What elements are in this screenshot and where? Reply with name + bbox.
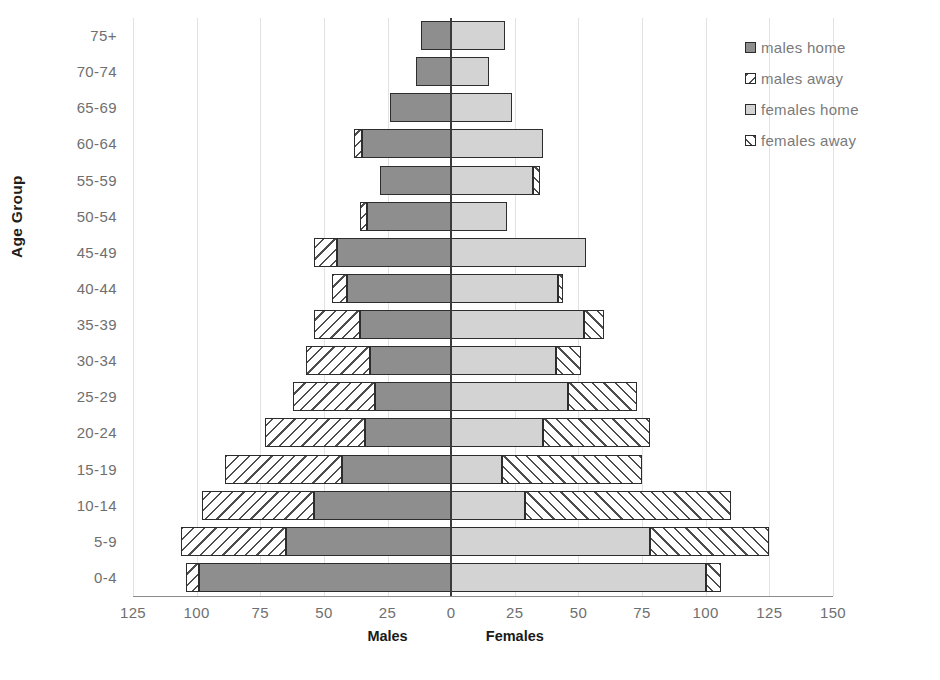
segment-females-away bbox=[525, 491, 731, 520]
bar-females bbox=[451, 527, 769, 556]
segment-males-home bbox=[362, 129, 451, 158]
legend-swatch-males-away-icon bbox=[745, 73, 756, 84]
bar-males bbox=[380, 166, 451, 195]
legend-item-males-away[interactable]: males away bbox=[745, 63, 935, 94]
bar-females bbox=[451, 491, 731, 520]
legend-swatch-females-away-icon bbox=[745, 135, 756, 146]
bar-row bbox=[133, 307, 833, 343]
bar-males bbox=[202, 491, 451, 520]
segment-males-away bbox=[265, 418, 364, 447]
bar-females bbox=[451, 346, 581, 375]
x-axis-tick-label: 100 bbox=[184, 604, 210, 621]
x-axis-tick-label: 25 bbox=[379, 604, 397, 621]
bar-males bbox=[354, 129, 451, 158]
legend-item-males-home[interactable]: males home bbox=[745, 32, 935, 63]
bar-row bbox=[133, 343, 833, 379]
bar-males bbox=[416, 57, 452, 86]
legend-item-females-away[interactable]: females away bbox=[745, 125, 935, 156]
x-axis-label-females: Females bbox=[486, 628, 544, 644]
segment-females-home bbox=[451, 418, 543, 447]
bar-row bbox=[133, 488, 833, 524]
bar-females bbox=[451, 563, 721, 592]
bar-males bbox=[314, 238, 451, 267]
segment-males-away bbox=[293, 382, 374, 411]
bar-row bbox=[133, 235, 833, 271]
legend: males homemales awayfemales homefemales … bbox=[745, 32, 935, 156]
segment-males-home bbox=[199, 563, 451, 592]
bar-males bbox=[360, 202, 452, 231]
segment-females-home bbox=[451, 238, 586, 267]
segment-females-away bbox=[650, 527, 770, 556]
segment-females-home bbox=[451, 455, 502, 484]
bar-females bbox=[451, 455, 642, 484]
segment-males-home bbox=[421, 21, 452, 50]
y-axis-labels: 75+70-7465-6960-6455-5950-5445-4940-4435… bbox=[0, 18, 125, 596]
legend-label: males away bbox=[761, 70, 843, 87]
x-axis-tick-label: 100 bbox=[693, 604, 719, 621]
x-axis-baseline bbox=[133, 596, 833, 597]
segment-females-away bbox=[568, 382, 637, 411]
bar-females bbox=[451, 57, 489, 86]
x-axis-tick-label: 50 bbox=[570, 604, 588, 621]
bar-females bbox=[451, 274, 563, 303]
bar-row bbox=[133, 163, 833, 199]
segment-males-home bbox=[390, 93, 451, 122]
segment-males-home bbox=[337, 238, 452, 267]
segment-males-away bbox=[202, 491, 314, 520]
y-axis-tick-label: 60-64 bbox=[77, 126, 117, 162]
bar-males bbox=[225, 455, 452, 484]
y-axis-tick-label: 20-24 bbox=[77, 415, 117, 451]
segment-males-away bbox=[186, 563, 199, 592]
bar-females bbox=[451, 310, 604, 339]
legend-label: females away bbox=[761, 132, 856, 149]
segment-males-away bbox=[225, 455, 342, 484]
plot-area bbox=[133, 18, 833, 596]
segment-females-away bbox=[533, 166, 541, 195]
y-axis-tick-label: 15-19 bbox=[77, 452, 117, 488]
legend-item-females-home[interactable]: females home bbox=[745, 94, 935, 125]
segment-males-away bbox=[181, 527, 285, 556]
segment-males-home bbox=[375, 382, 451, 411]
bar-males bbox=[390, 93, 451, 122]
segment-females-home bbox=[451, 21, 504, 50]
segment-males-home bbox=[314, 491, 451, 520]
bar-males bbox=[314, 310, 451, 339]
bar-row bbox=[133, 18, 833, 54]
bar-males bbox=[293, 382, 451, 411]
y-axis-tick-label: 70-74 bbox=[77, 54, 117, 90]
x-axis-tick-label: 125 bbox=[120, 604, 146, 621]
bar-males bbox=[181, 527, 451, 556]
segment-males-away bbox=[332, 274, 347, 303]
segment-females-away bbox=[558, 274, 563, 303]
y-axis-tick-label: 40-44 bbox=[77, 271, 117, 307]
segment-females-home bbox=[451, 310, 583, 339]
y-axis-tick-label: 55-59 bbox=[77, 163, 117, 199]
bar-females bbox=[451, 238, 586, 267]
segment-males-away bbox=[360, 202, 368, 231]
y-axis-tick-label: 45-49 bbox=[77, 235, 117, 271]
bar-females bbox=[451, 93, 512, 122]
segment-males-home bbox=[370, 346, 451, 375]
bar-row bbox=[133, 126, 833, 162]
segment-females-home bbox=[451, 166, 532, 195]
x-axis-label-males: Males bbox=[367, 628, 407, 644]
segment-males-home bbox=[360, 310, 452, 339]
y-axis-tick-label: 10-14 bbox=[77, 488, 117, 524]
segment-males-away bbox=[314, 238, 337, 267]
segment-females-away bbox=[556, 346, 581, 375]
bar-females bbox=[451, 21, 504, 50]
segment-females-away bbox=[502, 455, 642, 484]
y-axis-tick-label: 25-29 bbox=[77, 379, 117, 415]
segment-males-home bbox=[342, 455, 451, 484]
population-pyramid-chart: Age Group 75+70-7465-6960-6455-5950-5445… bbox=[0, 0, 940, 680]
bar-row bbox=[133, 452, 833, 488]
segment-males-away bbox=[314, 310, 360, 339]
bar-row bbox=[133, 560, 833, 596]
y-axis-tick-label: 75+ bbox=[90, 18, 117, 54]
segment-females-home bbox=[451, 563, 706, 592]
segment-males-home bbox=[365, 418, 452, 447]
segment-females-home bbox=[451, 57, 489, 86]
bar-females bbox=[451, 202, 507, 231]
y-axis-tick-label: 50-54 bbox=[77, 199, 117, 235]
y-axis-tick-label: 5-9 bbox=[94, 524, 117, 560]
